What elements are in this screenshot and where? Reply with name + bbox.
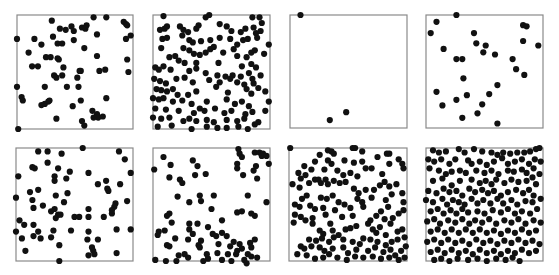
data-point	[31, 36, 37, 42]
data-point	[215, 241, 221, 247]
data-point	[521, 149, 527, 155]
data-point	[480, 49, 486, 55]
data-point	[15, 126, 21, 132]
data-point	[463, 226, 469, 232]
data-point	[302, 172, 308, 178]
data-point	[193, 66, 199, 72]
data-point	[494, 82, 500, 88]
data-point	[91, 251, 97, 257]
data-point	[334, 168, 340, 174]
data-point	[360, 235, 366, 241]
data-point	[308, 243, 314, 249]
data-point	[221, 110, 227, 116]
data-point	[471, 30, 477, 36]
data-point	[383, 242, 389, 248]
data-point	[224, 117, 230, 123]
data-point	[514, 149, 520, 155]
data-point	[239, 208, 245, 214]
data-point	[442, 250, 448, 256]
data-point	[508, 177, 514, 183]
data-point	[491, 159, 497, 165]
data-point	[520, 190, 526, 196]
data-point	[224, 96, 230, 102]
data-point	[20, 97, 26, 103]
data-point	[59, 151, 65, 157]
data-point	[462, 149, 468, 155]
scatter-panel-6	[151, 146, 272, 266]
data-point	[52, 178, 58, 184]
data-point	[173, 76, 179, 82]
data-point	[68, 227, 74, 233]
data-point	[371, 187, 377, 193]
data-point	[253, 64, 259, 70]
data-point	[363, 165, 369, 171]
data-point	[343, 179, 349, 185]
data-point	[32, 165, 38, 171]
data-point	[180, 118, 186, 124]
data-point	[185, 29, 191, 35]
data-point	[430, 147, 436, 153]
data-point	[240, 172, 246, 178]
data-point	[308, 166, 314, 172]
data-point	[94, 31, 100, 37]
data-point	[100, 113, 106, 119]
data-point	[531, 192, 537, 198]
scatter-panel-4	[426, 12, 543, 128]
data-point	[22, 248, 28, 254]
data-point	[71, 37, 77, 43]
data-point	[214, 250, 220, 256]
data-point	[465, 209, 471, 215]
data-point	[341, 201, 347, 207]
data-point	[456, 146, 462, 152]
data-point	[365, 248, 371, 254]
data-point	[424, 239, 430, 245]
data-point	[124, 22, 130, 28]
data-point	[186, 116, 192, 122]
data-point	[445, 217, 451, 223]
data-point	[399, 190, 405, 196]
data-point	[491, 248, 497, 254]
data-point	[198, 198, 204, 204]
data-point	[193, 60, 199, 66]
data-point	[35, 187, 41, 193]
data-point	[452, 220, 458, 226]
data-point	[488, 181, 494, 187]
data-point	[163, 107, 169, 113]
data-point	[57, 26, 63, 32]
data-point	[459, 56, 465, 62]
data-point	[453, 12, 459, 18]
data-point	[529, 174, 535, 180]
data-point	[19, 235, 25, 241]
data-point	[431, 216, 437, 222]
data-point	[378, 256, 384, 262]
data-point	[71, 28, 77, 34]
data-point	[53, 192, 59, 198]
data-point	[330, 227, 336, 233]
data-point	[166, 54, 172, 60]
scatter-panel-8	[423, 145, 544, 264]
data-point	[331, 178, 337, 184]
data-point	[124, 198, 130, 204]
scatter-panel-2	[150, 12, 272, 132]
data-point	[499, 155, 505, 161]
data-point	[402, 234, 408, 240]
data-point	[124, 56, 130, 62]
data-point	[519, 247, 525, 253]
data-point	[67, 169, 73, 175]
data-point	[463, 248, 469, 254]
data-point	[350, 213, 356, 219]
data-point	[448, 207, 454, 213]
data-point	[239, 63, 245, 69]
data-point	[325, 181, 331, 187]
data-point	[203, 171, 209, 177]
data-point	[297, 204, 303, 210]
data-point	[515, 216, 521, 222]
data-point	[59, 40, 65, 46]
data-point	[487, 200, 493, 206]
data-point	[204, 99, 210, 105]
data-point	[169, 123, 175, 129]
data-point	[231, 239, 237, 245]
data-point	[403, 243, 409, 249]
data-point	[320, 205, 326, 211]
data-point	[53, 75, 59, 81]
